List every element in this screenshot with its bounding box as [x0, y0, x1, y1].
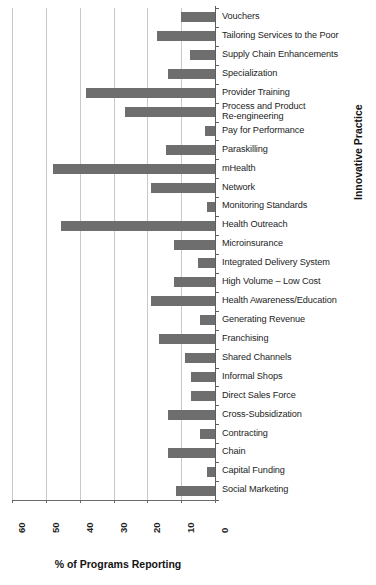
x-tick-label: 20	[151, 522, 162, 533]
category-tick	[215, 368, 219, 369]
bar-series	[12, 8, 215, 500]
bar	[174, 277, 215, 287]
category-label: Specialization	[222, 68, 277, 79]
bar	[151, 296, 215, 306]
category-tick	[215, 46, 219, 47]
bar	[168, 448, 215, 458]
y-axis-title: Innovative Practice	[352, 104, 364, 200]
bar	[191, 372, 215, 382]
bar	[151, 183, 215, 193]
category-label: Chain	[222, 446, 246, 457]
bar-row	[12, 467, 215, 477]
x-tick-mark-30	[114, 500, 115, 503]
category-label: Pay for Performance	[222, 125, 304, 136]
bar	[190, 50, 215, 60]
bar-row	[12, 277, 215, 287]
category-label: Contracting	[222, 428, 268, 439]
bar	[185, 353, 215, 363]
x-tick-mark-10	[181, 500, 182, 503]
x-tick-label: 0	[219, 528, 230, 533]
category-tick	[215, 254, 219, 255]
bar	[174, 240, 215, 250]
category-tick	[215, 8, 219, 9]
bar	[176, 486, 215, 496]
bar-row	[12, 50, 215, 60]
category-label: Paraskilling	[222, 144, 268, 155]
category-label: Vouchers	[222, 11, 260, 22]
category-label: Monitoring Standards	[222, 200, 307, 211]
bar-row	[12, 202, 215, 212]
category-label: Network	[222, 182, 255, 193]
bar	[198, 258, 215, 268]
category-labels: VouchersTailoring Services to the PoorSu…	[222, 0, 350, 510]
bar-row	[12, 69, 215, 79]
category-tick	[215, 235, 219, 236]
bar-row	[12, 296, 215, 306]
bar	[159, 334, 215, 344]
category-tick	[215, 292, 219, 293]
bar-row	[12, 221, 215, 231]
bar	[53, 164, 215, 174]
category-tick	[215, 405, 219, 406]
x-axis-title: % of Programs Reporting	[18, 558, 218, 570]
category-label: Cross-Subsidization	[222, 409, 302, 420]
bar-row	[12, 88, 215, 98]
category-tick	[215, 386, 219, 387]
bar-row	[12, 164, 215, 174]
bar-row	[12, 183, 215, 193]
bar-row	[12, 486, 215, 496]
category-label: Health Outreach	[222, 219, 287, 230]
category-tick	[215, 159, 219, 160]
bar	[181, 12, 215, 22]
x-tick-mark-20	[147, 500, 148, 503]
category-tick	[215, 424, 219, 425]
x-tick-label: 40	[84, 522, 95, 533]
bar-row	[12, 240, 215, 250]
bar-row	[12, 448, 215, 458]
x-tick-label: 10	[185, 522, 196, 533]
bar	[207, 202, 215, 212]
category-label: mHealth	[222, 163, 256, 174]
category-tick	[215, 443, 219, 444]
bar-row	[12, 315, 215, 325]
category-tick	[215, 84, 219, 85]
category-label: Tailoring Services to the Poor	[222, 30, 339, 41]
category-label: Informal Shops	[222, 371, 282, 382]
bar-row	[12, 429, 215, 439]
category-label: High Volume – Low Cost	[222, 276, 320, 287]
x-tick-label: 60	[16, 522, 27, 533]
category-label: Shared Channels	[222, 352, 292, 363]
bar-row	[12, 31, 215, 41]
category-tick	[215, 330, 219, 331]
category-tick	[215, 27, 219, 28]
bar	[61, 221, 215, 231]
category-tick	[215, 273, 219, 274]
category-label: Microinsurance	[222, 238, 283, 249]
bar-row	[12, 145, 215, 155]
category-tick	[215, 462, 219, 463]
horizontal-bar-chart: VouchersTailoring Services to the PoorSu…	[0, 0, 376, 585]
bar-row	[12, 410, 215, 420]
bar-row	[12, 334, 215, 344]
category-tick	[215, 349, 219, 350]
x-tick-mark-60	[12, 500, 13, 503]
bar	[166, 145, 215, 155]
bar	[200, 315, 215, 325]
category-label: Provider Training	[222, 87, 290, 98]
bar-row	[12, 107, 215, 117]
bar	[86, 88, 215, 98]
bar-row	[12, 258, 215, 268]
x-tick-label: 50	[50, 522, 61, 533]
bar	[125, 107, 215, 117]
category-tick	[215, 65, 219, 66]
bar	[205, 126, 215, 136]
x-tick-label: 30	[118, 522, 129, 533]
bar	[200, 429, 215, 439]
category-label: Process and Product Re-engineering	[222, 101, 305, 122]
category-label: Health Awareness/Education	[222, 295, 337, 306]
category-tick	[215, 178, 219, 179]
category-tick	[215, 311, 219, 312]
category-label: Generating Revenue	[222, 314, 305, 325]
category-label: Supply Chain Enhancements	[222, 49, 338, 60]
bar	[207, 467, 215, 477]
